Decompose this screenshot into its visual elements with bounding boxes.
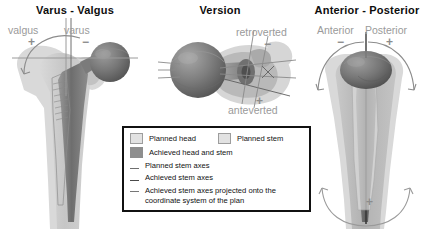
sign-valgus-positive: + (28, 36, 35, 48)
sign-posterior-positive: + (386, 36, 393, 48)
legend-label-achieved-stem-axes: Achieved stem axes (145, 173, 213, 182)
panel-title-version: Version (150, 4, 290, 16)
label-anteverted: anteverted (228, 104, 278, 116)
label-anterior: Anterior (317, 24, 354, 36)
sign-varus-negative: − (82, 36, 89, 48)
legend-box: Planned head Planned stem Achieved head … (122, 126, 311, 212)
femoral-head (90, 42, 130, 82)
figure-canvas: Varus - Valgus Version Anterior - Poster… (0, 0, 444, 229)
swatch-planned-head (130, 133, 143, 144)
legend-row-projected-axes: Achieved stem axes projected onto the co… (130, 186, 303, 206)
panel-title-varus-valgus: Varus - Valgus (0, 4, 150, 16)
legend-row-planned-axes: Planned stem axes (130, 161, 303, 170)
legend-label-planned-stem-axes: Planned stem axes (145, 161, 210, 170)
legend-row-achieved: Achieved head and stem (130, 147, 303, 158)
panel-title-anterior-posterior: Anterior - Posterior (290, 4, 444, 16)
swatch-planned-stem (218, 133, 231, 144)
sign-ap-bottom-positive: + (366, 196, 373, 208)
sign-retroverted-negative: − (264, 38, 271, 50)
legend-label-achieved-head-and-stem: Achieved head and stem (149, 148, 233, 157)
legend-row-achieved-axes: Achieved stem axes (130, 173, 303, 182)
dash-achieved-stem-axes (130, 180, 139, 181)
sign-anteverted-positive: + (256, 95, 263, 107)
dash-planned-stem-axes (130, 168, 139, 169)
legend-row-planned: Planned head Planned stem (130, 133, 303, 144)
femoral-head (170, 42, 226, 98)
label-retroverted: retroverted (236, 26, 287, 38)
legend-label-projected-stem-axes: Achieved stem axes projected onto the co… (145, 186, 295, 206)
legend-label-planned-head: Planned head (149, 134, 196, 143)
sign-anterior-negative: − (337, 36, 344, 48)
dash-projected-stem-axes (130, 191, 139, 192)
legend-label-planned-stem: Planned stem (237, 134, 283, 143)
swatch-achieved-head-and-stem (130, 147, 143, 158)
